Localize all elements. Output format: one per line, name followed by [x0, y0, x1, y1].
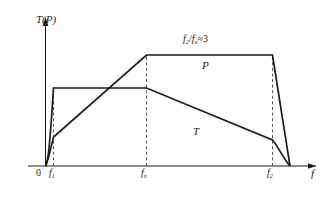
torque-power-vs-frequency-diagram: T(P) f 0 f1 fn f2 P T f2/fn≈3: [0, 0, 336, 199]
torque-curve: [46, 88, 291, 166]
torque-curve-label: T: [193, 126, 199, 137]
tick-fn-subscript: n: [144, 172, 147, 179]
ratio-denominator-subscript: n: [194, 38, 197, 45]
x-tick-label-f1: f1: [49, 168, 55, 178]
x-tick-label-fn: fn: [141, 168, 147, 178]
y-axis-label: T(P): [36, 14, 56, 25]
tick-f2-subscript: 2: [270, 172, 273, 179]
x-tick-label-f2: f2: [267, 168, 273, 178]
ratio-relation: ≈3: [198, 33, 209, 44]
power-curve-label: P: [202, 60, 209, 71]
dashed-guides-group: [54, 55, 273, 166]
origin-label: 0: [36, 168, 41, 178]
x-axis-label: f: [311, 168, 314, 179]
power-curve: [46, 55, 291, 166]
tick-f1-subscript: 1: [52, 172, 55, 179]
ratio-numerator-subscript: 2: [186, 38, 189, 45]
frequency-ratio-annotation: f2/fn≈3: [183, 34, 208, 44]
